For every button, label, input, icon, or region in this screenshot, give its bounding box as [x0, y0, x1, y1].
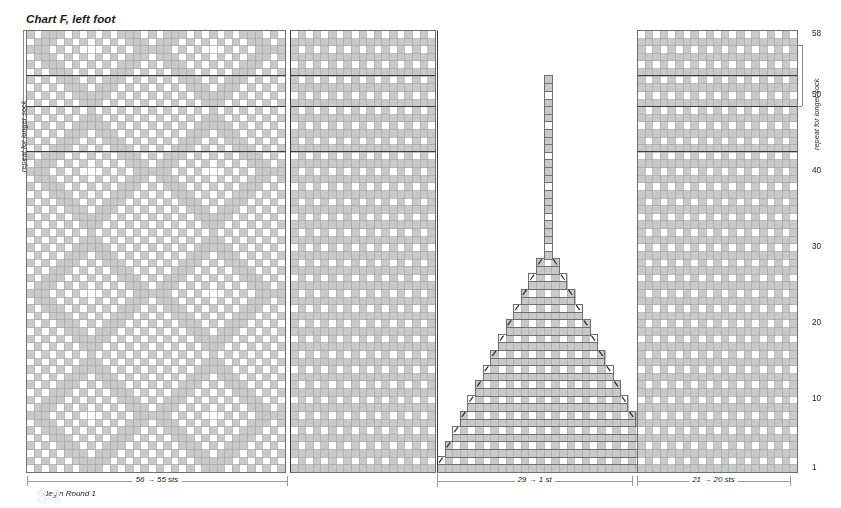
row-number: 50 — [812, 90, 821, 99]
row-number: 1 — [812, 463, 817, 472]
repeat-label-left: repeat for longer sock — [19, 101, 28, 172]
span-right-tick — [637, 476, 638, 486]
span-center-label: 29 → 1 st — [514, 475, 554, 484]
row-number: 58 — [812, 29, 821, 38]
span-left-tick — [27, 476, 28, 486]
repeat-bracket-right-top-tick — [797, 45, 802, 46]
row-number: 10 — [812, 394, 821, 403]
begin-round-tick — [437, 474, 438, 487]
chart-grid-canvas — [0, 0, 841, 508]
page-number-watermark: 84 — [36, 484, 62, 508]
repeat-bracket-right — [802, 45, 803, 106]
span-left-tick — [287, 476, 288, 486]
row-number: 40 — [812, 166, 821, 175]
span-center-tick — [632, 476, 633, 486]
repeat-bracket-right-bottom-tick — [797, 106, 802, 107]
row-number: 20 — [812, 318, 821, 327]
span-right-label: 21 → 20 sts — [689, 475, 738, 484]
knitting-chart: Chart F, left foot repeat for longer soc… — [0, 0, 841, 508]
span-right-tick — [790, 476, 791, 486]
repeat-bracket-left-top-tick — [23, 30, 28, 31]
span-left-label: 56 → 55 sts — [133, 475, 182, 484]
row-number: 30 — [812, 242, 821, 251]
